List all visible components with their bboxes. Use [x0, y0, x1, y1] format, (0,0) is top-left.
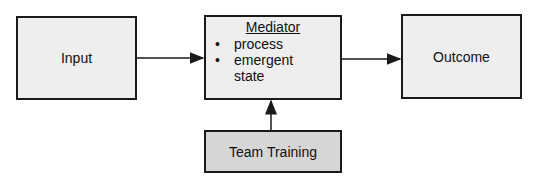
outcome-box: Outcome	[401, 14, 522, 99]
mediator-title: Mediator	[206, 19, 340, 36]
mediator-list: process emergent state	[206, 36, 340, 84]
team-training-box: Team Training	[204, 130, 342, 173]
input-box: Input	[16, 16, 137, 100]
input-label: Input	[61, 50, 92, 66]
mediator-item-process: process	[234, 36, 340, 52]
team-training-label: Team Training	[229, 144, 317, 160]
outcome-label: Outcome	[433, 49, 490, 65]
mediator-box: Mediator process emergent state	[204, 15, 342, 100]
mediator-item-emergent-state: emergent state	[234, 52, 314, 84]
